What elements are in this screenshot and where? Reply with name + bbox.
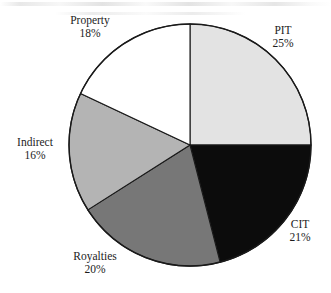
slice-label-indirect-name: Indirect bbox=[2, 136, 68, 149]
slice-label-cit: CIT 21% bbox=[276, 218, 324, 244]
slice-label-royalties-name: Royalties bbox=[52, 250, 138, 263]
slice-label-royalties-percent: 20% bbox=[52, 263, 138, 276]
slice-label-cit-percent: 21% bbox=[276, 231, 324, 244]
pie-chart: Property 18% PIT 25% CIT 21% Royalties 2… bbox=[0, 0, 331, 293]
slice-label-indirect-percent: 16% bbox=[2, 149, 68, 162]
slice-label-property-name: Property bbox=[52, 14, 128, 27]
slice-label-indirect: Indirect 16% bbox=[2, 136, 68, 162]
slice-label-cit-name: CIT bbox=[276, 218, 324, 231]
slice-label-pit-name: PIT bbox=[258, 24, 308, 37]
slice-label-property: Property 18% bbox=[52, 14, 128, 40]
slice-label-pit-percent: 25% bbox=[258, 37, 308, 50]
slice-label-royalties: Royalties 20% bbox=[52, 250, 138, 276]
slice-label-pit: PIT 25% bbox=[258, 24, 308, 50]
slice-label-property-percent: 18% bbox=[52, 27, 128, 40]
pie-slices bbox=[69, 24, 311, 266]
